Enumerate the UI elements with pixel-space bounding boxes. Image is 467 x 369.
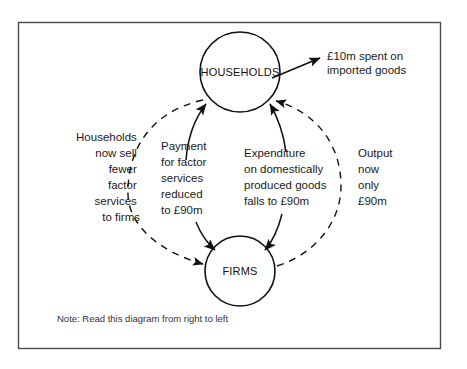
annotation-payment: Payment for factor services reduced to £… — [161, 140, 210, 216]
node-firms-label: FIRMS — [222, 265, 257, 277]
annotation-output: Output now only £90m — [358, 147, 396, 207]
expenditure-arrow-upper — [270, 104, 286, 152]
diagram-note: Note: Read this diagram from right to le… — [57, 313, 228, 324]
expenditure-arrow — [265, 214, 282, 250]
node-households-label: HOUSEHOLDS — [200, 66, 279, 78]
annotation-imports: £10m spent on imported goods — [327, 50, 407, 76]
annotation-expenditure: Expenditure on domestically produced goo… — [244, 147, 330, 207]
payment-arrow-lower — [196, 222, 215, 250]
diagram-page: HOUSEHOLDS FIRMS £10m spent on imported … — [0, 0, 467, 369]
circular-flow-diagram: HOUSEHOLDS FIRMS £10m spent on imported … — [0, 0, 467, 369]
